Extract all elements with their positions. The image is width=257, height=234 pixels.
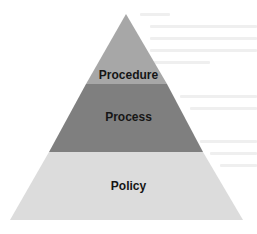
- label-procedure: Procedure: [0, 68, 257, 82]
- label-process: Process: [0, 110, 257, 124]
- label-policy: Policy: [0, 179, 257, 193]
